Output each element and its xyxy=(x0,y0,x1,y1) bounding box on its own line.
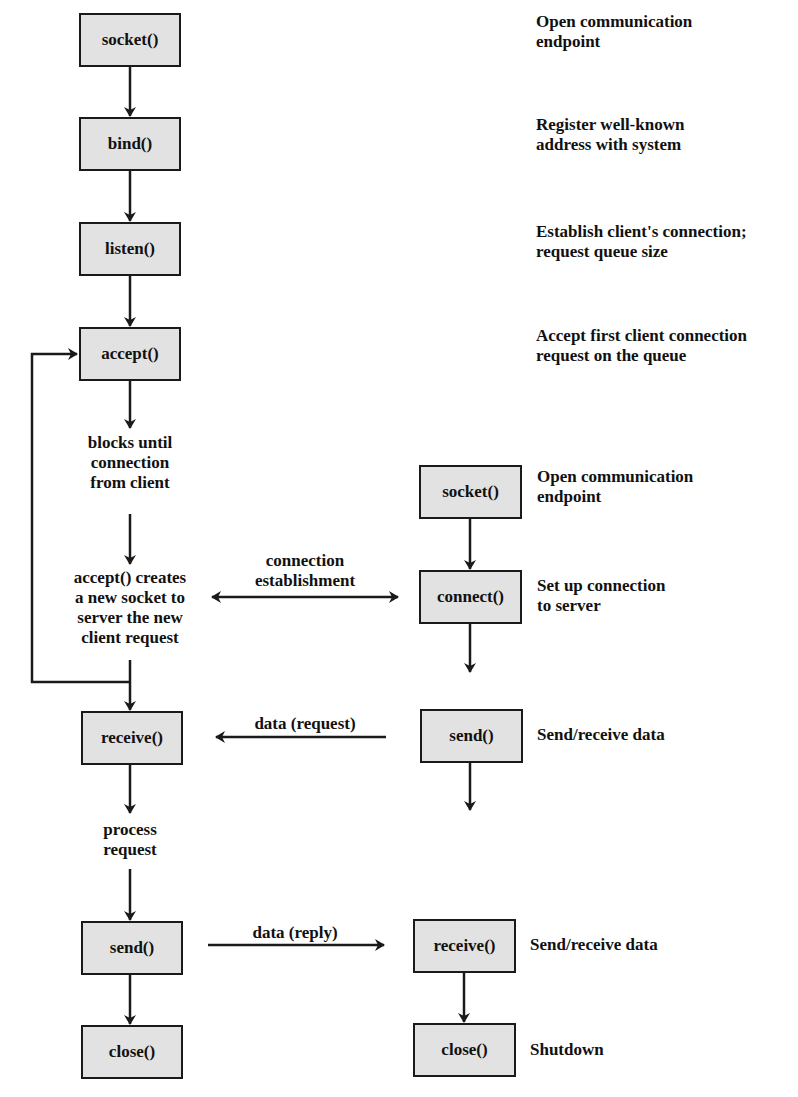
note-line: process xyxy=(80,820,180,840)
client-socket-label: socket() xyxy=(442,482,499,502)
note-line: accept() creates xyxy=(50,568,210,588)
desc-line: to server xyxy=(537,596,665,616)
server-socket-desc: Open communication endpoint xyxy=(536,12,692,52)
client-close-box: close() xyxy=(413,1023,516,1077)
client-close-label: close() xyxy=(441,1040,487,1060)
server-receive-box: receive() xyxy=(81,711,183,765)
client-receive-desc: Send/receive data xyxy=(530,935,658,955)
server-socket-label: socket() xyxy=(102,30,159,50)
server-close-label: close() xyxy=(109,1042,155,1062)
client-close-desc: Shutdown xyxy=(530,1040,604,1060)
server-listen-box: listen() xyxy=(79,222,181,276)
server-send-label: send() xyxy=(110,938,154,958)
client-receive-box: receive() xyxy=(413,919,516,973)
server-receive-label: receive() xyxy=(101,728,163,748)
process-note: process request xyxy=(80,820,180,860)
server-accept-box: accept() xyxy=(79,327,181,381)
desc-line: Open communication xyxy=(537,467,693,487)
server-bind-label: bind() xyxy=(108,134,152,154)
desc-line: Open communication xyxy=(536,12,692,32)
server-bind-box: bind() xyxy=(79,117,181,171)
client-send-label: send() xyxy=(449,726,493,746)
data-request-label: data (request) xyxy=(230,714,380,734)
desc-line: request on the queue xyxy=(536,346,747,366)
label-line: connection xyxy=(230,551,380,571)
note-line: server the new xyxy=(50,608,210,628)
server-close-box: close() xyxy=(81,1025,183,1079)
client-connect-desc: Set up connection to server xyxy=(537,576,665,616)
label-line: establishment xyxy=(230,571,380,591)
note-line: connection xyxy=(60,453,200,473)
note-line: blocks until xyxy=(60,433,200,453)
desc-line: endpoint xyxy=(537,487,693,507)
server-accept-label: accept() xyxy=(101,344,159,364)
server-socket-box: socket() xyxy=(79,13,181,67)
client-connect-box: connect() xyxy=(419,570,522,624)
blocks-note: blocks until connection from client xyxy=(60,433,200,493)
desc-line: request queue size xyxy=(536,242,747,262)
desc-line: Register well-known xyxy=(536,115,684,135)
client-connect-label: connect() xyxy=(437,587,504,607)
client-receive-label: receive() xyxy=(434,936,496,956)
client-send-desc: Send/receive data xyxy=(537,725,665,745)
connection-establishment-label: connection establishment xyxy=(230,551,380,591)
server-listen-label: listen() xyxy=(105,239,155,259)
client-send-box: send() xyxy=(420,709,523,763)
server-bind-desc: Register well-known address with system xyxy=(536,115,684,155)
client-socket-desc: Open communication endpoint xyxy=(537,467,693,507)
server-accept-desc: Accept first client connection request o… xyxy=(536,326,747,366)
note-line: from client xyxy=(60,473,200,493)
client-socket-box: socket() xyxy=(419,465,522,519)
server-send-box: send() xyxy=(81,921,183,975)
desc-line: address with system xyxy=(536,135,684,155)
note-line: request xyxy=(80,840,180,860)
server-listen-desc: Establish client's connection; request q… xyxy=(536,222,747,262)
accept-creates-note: accept() creates a new socket to server … xyxy=(50,568,210,648)
desc-line: endpoint xyxy=(536,32,692,52)
note-line: client request xyxy=(50,628,210,648)
desc-line: Accept first client connection xyxy=(536,326,747,346)
desc-line: Set up connection xyxy=(537,576,665,596)
note-line: a new socket to xyxy=(50,588,210,608)
desc-line: Establish client's connection; xyxy=(536,222,747,242)
data-reply-label: data (reply) xyxy=(225,923,365,943)
